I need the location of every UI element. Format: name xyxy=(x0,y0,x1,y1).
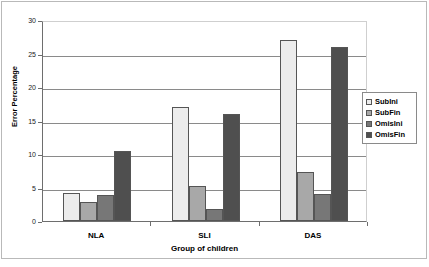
legend-label-omisini: OmisIni xyxy=(375,119,403,128)
y-axis-tick-label: 20 xyxy=(28,84,36,92)
bar-chart-figure: Error Percentage 051015202530 Group of c… xyxy=(0,0,429,267)
y-axis-tick-mark xyxy=(38,222,42,223)
x-axis-group-label-nla: NLA xyxy=(56,231,136,240)
bar-das-subini xyxy=(280,40,297,221)
legend-label-subfin: SubFin xyxy=(375,108,400,117)
bar-sli-omisini xyxy=(206,209,223,221)
legend-swatch-subfin xyxy=(366,110,372,116)
y-axis-tick-label: 30 xyxy=(28,17,36,25)
y-axis-tick-label: 5 xyxy=(32,185,36,193)
y-axis-tick-mark xyxy=(38,55,42,56)
y-axis-tick-mark xyxy=(38,21,42,22)
bar-sli-subini xyxy=(172,107,189,221)
legend-swatch-subini xyxy=(366,99,372,105)
legend-label-omisfin: OmisFin xyxy=(375,130,405,139)
y-axis-tick-labels: 051015202530 xyxy=(0,21,36,222)
legend-label-subini: SubIni xyxy=(375,97,398,106)
x-axis-tick-mark xyxy=(367,222,368,226)
legend-item-omisini: OmisIni xyxy=(366,118,413,129)
chart-legend: SubIniSubFinOmisIniOmisFin xyxy=(362,92,417,144)
y-axis-tick-mark xyxy=(38,155,42,156)
y-axis-tick-mark xyxy=(38,122,42,123)
plot-area xyxy=(42,21,367,222)
y-axis-tick-label: 25 xyxy=(28,51,36,59)
bar-nla-omisfin xyxy=(114,151,131,221)
x-axis-group-label-sli: SLI xyxy=(165,231,245,240)
y-axis-tick-label: 15 xyxy=(28,118,36,126)
legend-swatch-omisini xyxy=(366,121,372,127)
bar-nla-subfin xyxy=(80,202,97,221)
y-axis-tick-mark xyxy=(38,88,42,89)
bar-sli-subfin xyxy=(189,186,206,222)
bar-nla-subini xyxy=(63,193,80,221)
x-axis-tick-mark xyxy=(259,222,260,226)
gridline xyxy=(43,156,366,157)
gridline xyxy=(43,56,366,57)
x-axis-title: Group of children xyxy=(42,244,367,253)
x-axis-group-label-das: DAS xyxy=(273,231,353,240)
bar-das-subfin xyxy=(297,172,314,221)
bar-das-omisfin xyxy=(331,47,348,221)
y-axis-tick-mark xyxy=(38,189,42,190)
legend-item-subini: SubIni xyxy=(366,96,413,107)
gridline xyxy=(43,89,366,90)
bar-das-omisini xyxy=(314,194,331,221)
legend-item-omisfin: OmisFin xyxy=(366,129,413,140)
y-axis-tick-label: 0 xyxy=(32,218,36,226)
y-axis-tick-label: 10 xyxy=(28,151,36,159)
bar-nla-omisini xyxy=(97,195,114,221)
x-axis-tick-mark xyxy=(150,222,151,226)
legend-item-subfin: SubFin xyxy=(366,107,413,118)
bar-sli-omisfin xyxy=(223,114,240,221)
legend-swatch-omisfin xyxy=(366,132,372,138)
gridline xyxy=(43,123,366,124)
